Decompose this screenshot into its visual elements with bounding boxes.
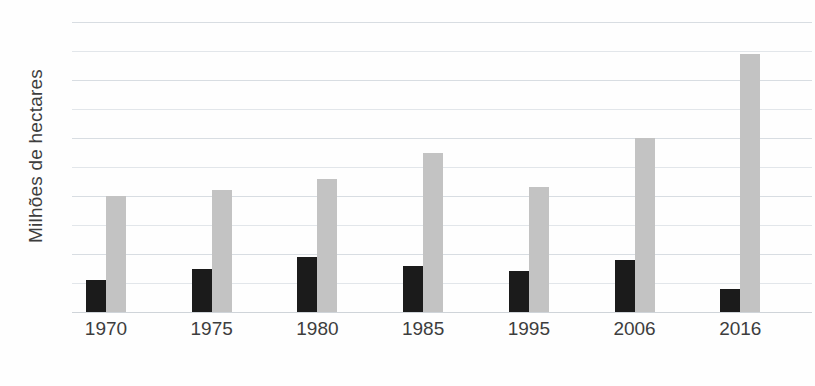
bar-group xyxy=(615,22,655,312)
bar-chart: Milhões de hectares 19701975198019851995… xyxy=(0,0,815,386)
bar xyxy=(635,138,655,312)
bar xyxy=(509,271,529,312)
x-axis-tick-label: 2016 xyxy=(687,318,793,340)
x-axis-tick-labels: 1970197519801985199520062016 xyxy=(72,318,812,352)
x-axis-tick-label: 2006 xyxy=(582,318,688,340)
bar-group xyxy=(297,22,337,312)
bar xyxy=(212,190,232,312)
x-axis-tick-label: 1995 xyxy=(476,318,582,340)
bar xyxy=(423,153,443,313)
bar-group xyxy=(86,22,126,312)
bar xyxy=(297,257,317,312)
bar-group xyxy=(509,22,549,312)
bar xyxy=(317,179,337,312)
plot-area xyxy=(72,22,812,312)
bar xyxy=(720,289,740,312)
bar xyxy=(740,54,760,312)
bar xyxy=(192,269,212,313)
x-axis-tick-label: 1970 xyxy=(53,318,159,340)
bar xyxy=(403,266,423,312)
bar-group xyxy=(192,22,232,312)
bar-series-container xyxy=(72,22,812,312)
y-axis-title-text: Milhões de hectares xyxy=(25,69,47,243)
bar-group xyxy=(403,22,443,312)
bar xyxy=(529,187,549,312)
x-axis-tick-label: 1980 xyxy=(265,318,371,340)
bar-group xyxy=(720,22,760,312)
bar xyxy=(615,260,635,312)
bar xyxy=(106,196,126,312)
x-axis-tick-label: 1975 xyxy=(159,318,265,340)
bar xyxy=(86,280,106,312)
y-axis-title: Milhões de hectares xyxy=(0,0,72,312)
x-axis-tick-label: 1985 xyxy=(370,318,476,340)
